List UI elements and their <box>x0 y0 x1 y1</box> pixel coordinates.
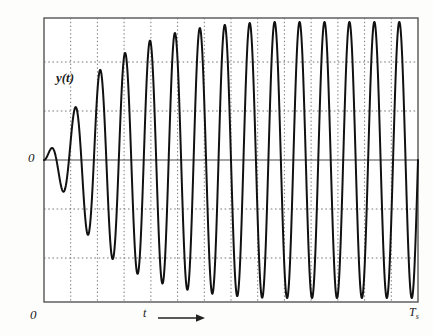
oscillation-figure: y(t) 0 0 t Ts <box>0 0 433 336</box>
time-axis-label: t <box>143 306 146 321</box>
y-axis-zero-label: 0 <box>28 150 35 166</box>
origin-zero-label: 0 <box>30 307 37 323</box>
end-time-label: Ts <box>409 305 419 321</box>
time-axis-arrow <box>158 314 205 322</box>
end-time-subscript: s <box>416 312 419 321</box>
plot-canvas <box>0 0 433 336</box>
end-time-base: T <box>409 305 416 319</box>
y-signal-label: y(t) <box>56 70 74 86</box>
